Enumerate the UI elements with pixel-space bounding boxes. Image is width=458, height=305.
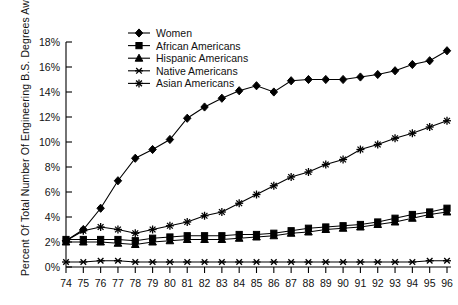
x-axis: 7475767778798081828384858687888990919293… [60,267,453,289]
x-tick-label: 84 [233,277,245,289]
x-tick-label: 88 [303,277,315,289]
x-tick-label: 90 [337,277,349,289]
y-tick-label: 8% [45,161,60,173]
x-tick-label: 82 [199,277,211,289]
x-tick-label: 74 [60,277,72,289]
legend-label: Women [156,27,192,39]
x-tick-label: 80 [164,277,176,289]
legend-item-hispanic-americans[interactable]: Hispanic Americans [128,52,248,64]
series-layer [62,47,451,265]
x-tick-label: 92 [372,277,384,289]
legend-item-african-americans[interactable]: African Americans [128,40,241,52]
x-tick-label: 78 [129,277,141,289]
y-tick-label: 6% [45,186,60,198]
x-tick-label: 86 [268,277,280,289]
legend-label: Native Americans [156,65,238,77]
legend-item-asian-americans[interactable]: Asian Americans [128,77,234,89]
x-tick-label: 96 [441,277,453,289]
x-tick-label: 77 [112,277,124,289]
x-tick-label: 89 [320,277,332,289]
x-tick-label: 87 [285,277,297,289]
legend-label: Asian Americans [156,77,234,89]
x-tick-label: 83 [216,277,228,289]
legend-item-women[interactable]: Women [128,27,192,39]
y-tick-label: 14% [39,86,60,98]
y-tick-label: 10% [39,136,60,148]
legend-item-native-americans[interactable]: Native Americans [128,65,238,77]
y-tick-label: 12% [39,111,60,123]
legend-label: African Americans [156,40,241,52]
x-tick-label: 93 [389,277,401,289]
x-tick-label: 75 [77,277,89,289]
line-chart: 0%2%4%6%8%10%12%14%16%18% 74757677787980… [0,0,458,305]
series-native-americans [62,258,451,265]
chart-legend: WomenAfrican AmericansHispanic Americans… [128,27,248,89]
legend-label: Hispanic Americans [156,52,248,64]
x-tick-label: 94 [407,277,419,289]
x-tick-label: 91 [355,277,367,289]
x-tick-label: 95 [424,277,436,289]
y-tick-label: 2% [45,236,60,248]
y-tick-label: 16% [39,61,60,73]
y-tick-label: 4% [45,211,60,223]
x-tick-label: 79 [147,277,159,289]
x-tick-label: 81 [181,277,193,289]
y-tick-label: 18% [39,36,60,48]
x-tick-label: 76 [95,277,107,289]
chart-page: Percent Of Total Number Of Engineering B… [0,0,458,305]
x-tick-label: 85 [251,277,263,289]
y-tick-label: 0% [45,261,60,273]
